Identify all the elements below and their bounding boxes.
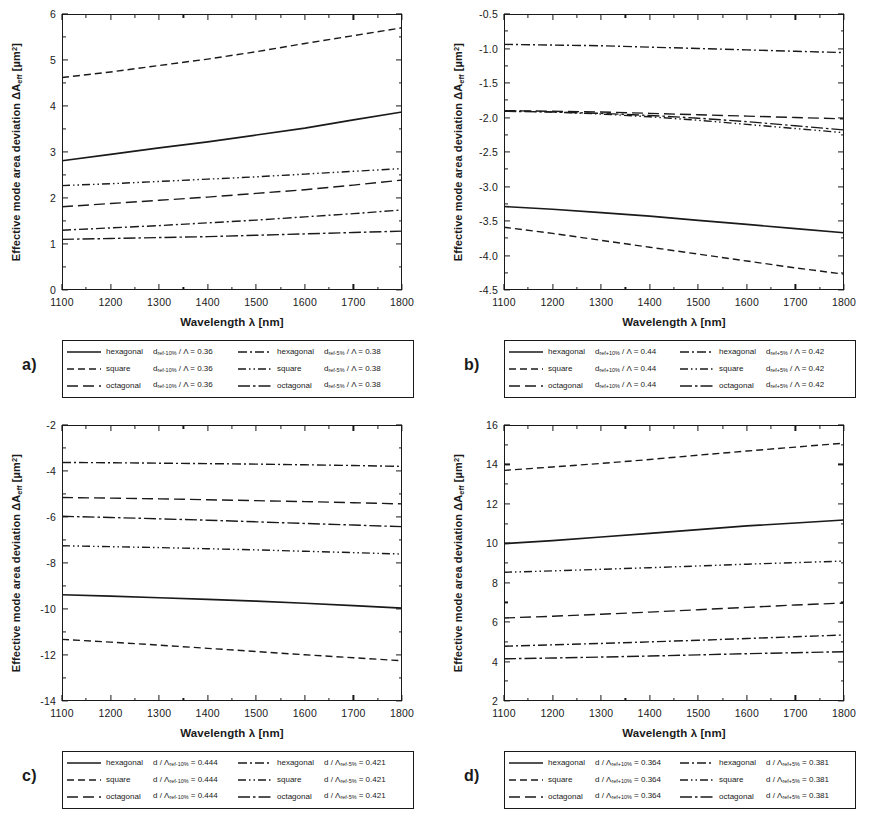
- y-tick-label: 8: [492, 577, 498, 589]
- series-line: [504, 44, 844, 52]
- legend-shape-label: square: [106, 776, 148, 784]
- series-line: [62, 516, 402, 526]
- panel-label-b: b): [464, 356, 480, 374]
- series-line: [62, 210, 402, 230]
- x-tick-label: 1700: [783, 296, 807, 308]
- legend-line-swatch: [67, 382, 101, 390]
- legend-item: octagonaldref+5% / Λ = 0.42: [680, 381, 851, 390]
- legend-line-swatch: [67, 348, 101, 356]
- legend-item: squaredref+10% / Λ = 0.44: [509, 365, 680, 374]
- plot-area: -0.5-1.0-1.5-2.0-2.5-3.0-3.5-4.0-4.51100…: [504, 14, 844, 290]
- legend-shape-label: octagonal: [548, 793, 590, 801]
- y-axis-label: Effective mode area deviation ΔAeff [µm2…: [450, 425, 468, 701]
- legend-item: squaredref-5% / Λ = 0.38: [238, 365, 409, 374]
- legend-line-swatch: [680, 776, 714, 784]
- legend-expression: dref-5% / Λ = 0.38: [324, 381, 381, 390]
- x-tick-label: 1400: [638, 296, 662, 308]
- legend-shape-label: square: [277, 776, 319, 784]
- legend-expression: dref+10% / Λ = 0.44: [595, 381, 656, 390]
- legend-item: octagonald / Λref-10% = 0.444: [67, 792, 238, 801]
- legend-expression: d / Λref-10% = 0.444: [153, 759, 218, 768]
- series-line: [504, 443, 844, 470]
- y-tick-label: 1: [50, 238, 56, 250]
- legend-shape-label: hexagonal: [277, 759, 319, 767]
- legend-item: octagonaldref+10% / Λ = 0.44: [509, 381, 680, 390]
- legend-line-swatch: [680, 382, 714, 390]
- legend-item: octagonald / Λref+10% = 0.364: [509, 792, 680, 801]
- legend-line-swatch: [238, 759, 272, 767]
- legend-expression: d / Λref-5% = 0.421: [324, 759, 386, 768]
- y-tick-label: -12: [40, 649, 56, 661]
- series-line: [62, 112, 402, 161]
- legend-item: octagonald / Λref+5% = 0.381: [680, 792, 851, 801]
- legend-item: hexagonaldref-5% / Λ = 0.38: [238, 348, 409, 357]
- y-tick-label: 4: [492, 656, 498, 668]
- legend-expression: d / Λref+10% = 0.364: [595, 792, 661, 801]
- y-tick-label: -14: [40, 695, 56, 707]
- y-tick-label: 16: [486, 419, 498, 431]
- y-axis-label: Effective mode area deviation ΔAeff [µm2…: [450, 14, 468, 290]
- legend-shape-label: hexagonal: [106, 348, 148, 356]
- x-tick-label: 1300: [147, 707, 171, 719]
- legend-shape-label: octagonal: [719, 793, 761, 801]
- legend-line-swatch: [67, 776, 101, 784]
- y-tick-label: -3.0: [479, 181, 498, 193]
- legend-shape-label: hexagonal: [719, 759, 761, 767]
- legend-expression: dref-10% / Λ = 0.36: [153, 381, 213, 390]
- legend-shape-label: square: [719, 365, 761, 373]
- x-tick-label: 1800: [832, 296, 856, 308]
- legend-shape-label: hexagonal: [106, 759, 148, 767]
- legend-shape-label: octagonal: [548, 382, 590, 390]
- x-axis-label: Wavelength λ [nm]: [504, 727, 844, 739]
- y-tick-label: -8: [46, 557, 56, 569]
- legend-shape-label: octagonal: [106, 382, 148, 390]
- legend-line-swatch: [67, 793, 101, 801]
- legend-expression: d / Λref-5% = 0.421: [324, 776, 386, 785]
- legend-shape-label: hexagonal: [548, 759, 590, 767]
- x-tick-label: 1600: [735, 296, 759, 308]
- y-tick-label: 14: [486, 458, 498, 470]
- x-tick-label: 1500: [244, 296, 268, 308]
- x-tick-label: 1300: [147, 296, 171, 308]
- x-tick-label: 1700: [341, 707, 365, 719]
- series-line: [62, 28, 402, 78]
- x-tick-label: 1400: [196, 707, 220, 719]
- y-tick-label: 6: [492, 616, 498, 628]
- legend: hexagonaldref-10% / Λ = 0.36hexagonaldre…: [62, 340, 414, 398]
- x-tick-label: 1100: [50, 296, 73, 308]
- legend-line-swatch: [238, 776, 272, 784]
- legend-item: squared / Λref-5% = 0.421: [238, 776, 409, 785]
- series-line: [504, 207, 844, 233]
- legend-shape-label: square: [548, 776, 590, 784]
- legend-shape-label: octagonal: [719, 382, 761, 390]
- legend-expression: d / Λref+5% = 0.381: [766, 759, 829, 768]
- legend-item: octagonaldref-10% / Λ = 0.36: [67, 381, 238, 390]
- legend-expression: dref-10% / Λ = 0.36: [153, 365, 213, 374]
- legend-expression: dref+5% / Λ = 0.42: [766, 381, 824, 390]
- y-tick-label: 2: [492, 695, 498, 707]
- legend-item: octagonald / Λref-5% = 0.421: [238, 792, 409, 801]
- x-tick-label: 1800: [832, 707, 856, 719]
- series-line: [62, 595, 402, 608]
- series-line: [62, 462, 402, 466]
- plot-area: -2-4-6-8-10-12-1411001200130014001500160…: [62, 425, 402, 701]
- y-tick-label: -1.5: [479, 77, 498, 89]
- x-tick-label: 1200: [98, 296, 122, 308]
- y-tick-label: -4.5: [479, 284, 498, 296]
- legend-line-swatch: [509, 759, 543, 767]
- legend-line-swatch: [509, 382, 543, 390]
- x-tick-label: 1500: [244, 707, 268, 719]
- legend-shape-label: square: [277, 365, 319, 373]
- x-tick-label: 1600: [293, 296, 317, 308]
- y-tick-label: -2.0: [479, 112, 498, 124]
- series-line: [504, 603, 844, 618]
- y-tick-label: -10: [40, 603, 56, 615]
- legend-line-swatch: [509, 793, 543, 801]
- legend-expression: dref+10% / Λ = 0.44: [595, 365, 656, 374]
- plot-area: 1614121086421100120013001400150016001700…: [504, 425, 844, 701]
- y-tick-label: 6: [50, 8, 56, 20]
- legend-item: hexagonaldref+5% / Λ = 0.42: [680, 348, 851, 357]
- x-tick-label: 1600: [293, 707, 317, 719]
- legend-expression: dref+5% / Λ = 0.42: [766, 365, 824, 374]
- panel-c: Effective mode area deviation ΔAeff [µm2…: [0, 411, 442, 822]
